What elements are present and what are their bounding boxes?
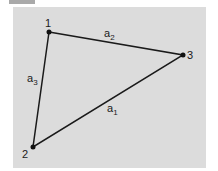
edge-a3-label: a3 — [27, 72, 38, 87]
edge-a2-label: a2 — [104, 27, 115, 42]
vertex-2-dot — [31, 145, 36, 150]
vertex-3-label: 3 — [187, 49, 193, 61]
triangle-outline — [33, 32, 183, 147]
edge-a1-label: a1 — [107, 102, 118, 117]
vertex-1-label: 1 — [45, 17, 51, 29]
triangle-diagram: 1 2 3 a2 a1 a3 — [0, 0, 218, 171]
vertex-1-dot — [47, 30, 52, 35]
vertex-3-dot — [181, 53, 186, 58]
vertex-2-label: 2 — [22, 148, 28, 160]
